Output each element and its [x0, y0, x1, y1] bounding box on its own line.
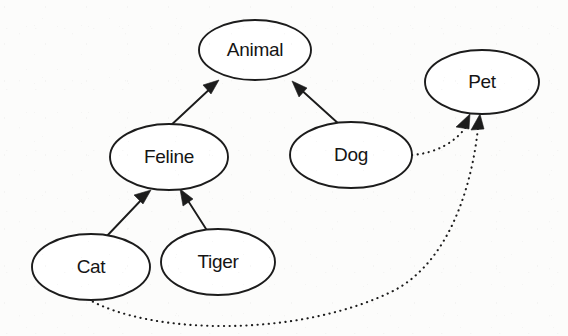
class-hierarchy-diagram: Animal Pet Feline Dog Cat	[0, 0, 568, 336]
arrowhead-icon	[471, 114, 484, 130]
node-layer: Animal Pet Feline Dog Cat	[32, 20, 539, 300]
edge-line	[168, 86, 213, 128]
node-label-feline: Feline	[144, 146, 194, 167]
arrowhead-icon	[456, 114, 470, 129]
node-pet[interactable]: Pet	[425, 50, 539, 114]
node-animal[interactable]: Animal	[199, 20, 311, 80]
edge-tiger-to-feline[interactable]	[180, 189, 208, 232]
node-cat[interactable]: Cat	[32, 234, 150, 300]
node-feline[interactable]: Feline	[110, 124, 228, 190]
edge-line	[412, 127, 466, 155]
node-dog[interactable]: Dog	[290, 122, 412, 188]
edge-line	[105, 196, 145, 238]
edge-dog-to-pet[interactable]	[412, 114, 470, 155]
node-label-cat: Cat	[77, 256, 107, 277]
node-label-tiger: Tiger	[197, 251, 239, 272]
diagram-canvas-container: Animal Pet Feline Dog Cat	[0, 0, 568, 336]
arrowhead-icon	[134, 190, 151, 204]
edge-line	[298, 87, 340, 125]
node-tiger[interactable]: Tiger	[161, 229, 275, 295]
arrowhead-icon	[180, 189, 193, 206]
node-label-animal: Animal	[227, 39, 283, 60]
arrowhead-icon	[292, 81, 307, 97]
node-label-pet: Pet	[468, 71, 497, 92]
edge-feline-to-animal[interactable]	[168, 80, 219, 128]
edge-dog-to-animal[interactable]	[292, 81, 340, 125]
edge-cat-to-feline[interactable]	[105, 190, 151, 238]
edge-layer	[88, 80, 484, 326]
node-label-dog: Dog	[334, 144, 368, 165]
